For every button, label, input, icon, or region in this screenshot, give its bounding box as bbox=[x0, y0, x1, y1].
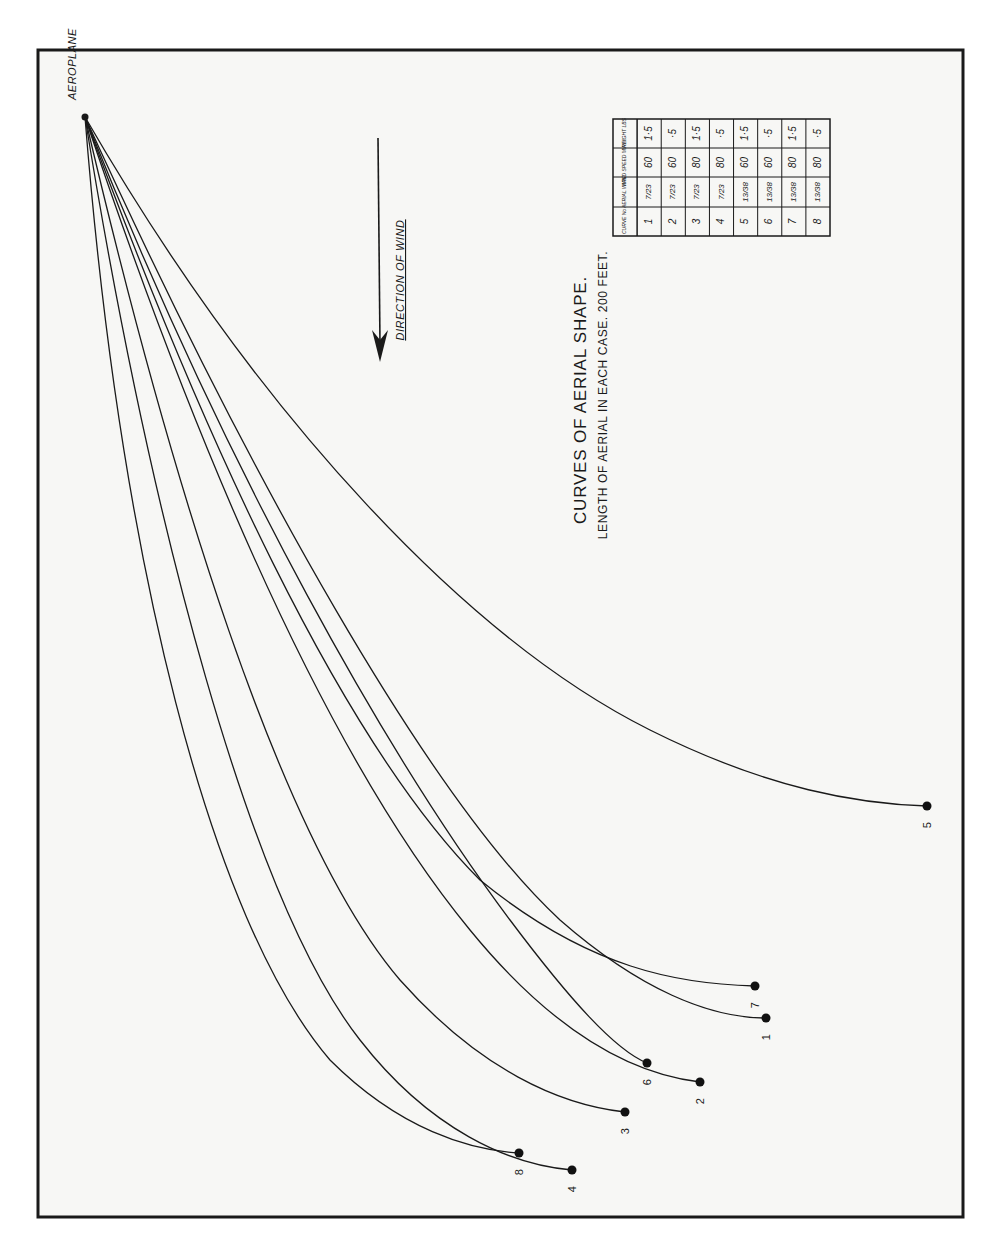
table-cell-wire: 13/38 bbox=[789, 181, 798, 202]
curve-label: 6 bbox=[641, 1079, 653, 1085]
curve-endpoint-icon bbox=[621, 1108, 630, 1117]
curve-endpoint-icon bbox=[751, 982, 760, 991]
table-cell-speed: 80 bbox=[787, 157, 798, 169]
table-cell-curve: 2 bbox=[667, 218, 678, 225]
curve-endpoint-icon bbox=[643, 1059, 652, 1068]
table-cell-curve: 5 bbox=[739, 218, 750, 224]
table-cell-wire: 7/23 bbox=[668, 184, 677, 200]
table-cell-speed: 60 bbox=[667, 157, 678, 169]
table-cell-speed: 60 bbox=[643, 157, 654, 169]
table-cell-weight: ·5 bbox=[763, 129, 774, 138]
aerial-curves-diagram: AEROPLANE DIRECTION OF WIND CURVES OF AE… bbox=[0, 0, 993, 1249]
table-cell-weight: ·5 bbox=[715, 129, 726, 138]
table-cell-wire: 7/23 bbox=[644, 184, 653, 200]
curve-endpoint-icon bbox=[515, 1149, 524, 1158]
curve-endpoint-icon bbox=[696, 1078, 705, 1087]
table-cell-curve: 1 bbox=[643, 219, 654, 225]
curve-endpoint-icon bbox=[762, 1014, 771, 1023]
table-cell-weight: 1·5 bbox=[787, 126, 798, 141]
table-cell-speed: 80 bbox=[691, 157, 702, 169]
table-cell-wire: 7/23 bbox=[692, 184, 701, 200]
curve-endpoint-icon bbox=[923, 802, 932, 811]
table-cell-wire: 13/38 bbox=[813, 181, 822, 202]
table-cell-wire: 13/38 bbox=[765, 181, 774, 202]
table-cell-wire: 7/23 bbox=[717, 184, 726, 200]
table-cell-curve: 4 bbox=[715, 218, 726, 224]
aeroplane-label: AEROPLANE bbox=[66, 28, 78, 101]
table-cell-wire: 13/38 bbox=[741, 181, 750, 202]
table-cell-curve: 3 bbox=[691, 218, 702, 224]
table-header-cell: CURVE No bbox=[621, 209, 627, 234]
frame-border bbox=[38, 50, 963, 1217]
diagram-title: CURVES OF AERIAL SHAPE. bbox=[571, 276, 590, 524]
table-cell-speed: 80 bbox=[715, 157, 726, 169]
curve-label: 2 bbox=[694, 1098, 706, 1104]
table-cell-curve: 7 bbox=[787, 218, 798, 224]
table-header-cell: WEIGHT LBS bbox=[621, 117, 627, 149]
table-cell-curve: 8 bbox=[812, 218, 823, 224]
curve-label: 3 bbox=[619, 1128, 631, 1134]
table-cell-weight: 1·5 bbox=[691, 126, 702, 141]
table-cell-speed: 80 bbox=[812, 157, 823, 169]
diagram-sheet: AEROPLANE DIRECTION OF WIND CURVES OF AE… bbox=[0, 0, 993, 1249]
table-cell-weight: ·5 bbox=[667, 129, 678, 138]
table-cell-weight: ·5 bbox=[812, 129, 823, 138]
curve-label: 1 bbox=[760, 1034, 772, 1040]
table-cell-speed: 60 bbox=[739, 157, 750, 169]
table-cell-weight: 1·5 bbox=[643, 126, 654, 141]
curve-label: 4 bbox=[566, 1186, 578, 1192]
curve-endpoint-icon bbox=[568, 1166, 577, 1175]
table-cell-speed: 60 bbox=[763, 157, 774, 169]
table-cell-curve: 6 bbox=[763, 218, 774, 224]
curve-label: 8 bbox=[513, 1169, 525, 1175]
diagram-subtitle: LENGTH OF AERIAL IN EACH CASE. 200 FEET. bbox=[596, 251, 610, 539]
curve-label: 5 bbox=[921, 822, 933, 828]
wind-direction-label: DIRECTION OF WIND bbox=[394, 219, 406, 340]
curve-label: 7 bbox=[749, 1002, 761, 1008]
table-cell-weight: 1·5 bbox=[739, 126, 750, 141]
